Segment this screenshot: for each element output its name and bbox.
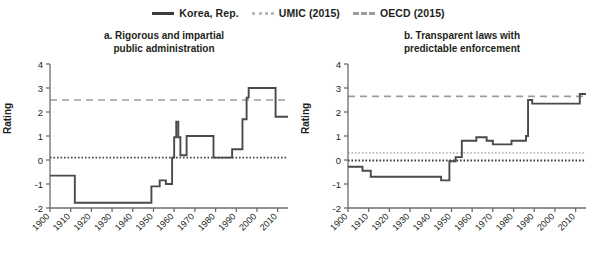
legend-item-korea: Korea, Rep. [152,7,238,19]
x-tick-label: 1910 [51,211,72,232]
x-tick-label: 1950 [432,211,453,232]
x-tick-label: 1930 [92,211,113,232]
y-tick-label: -1 [35,179,43,190]
y-tick-label: 0 [38,155,43,166]
x-tick-label: 1940 [411,211,432,232]
line-dotted-icon [252,12,274,15]
y-tick-label: 2 [336,107,341,118]
y-tick-label: -1 [333,179,341,190]
x-tick-label: 1900 [328,211,349,232]
x-tick-label: 1970 [473,211,494,232]
x-tick-label: 1960 [154,211,175,232]
x-tick-label: 1920 [72,211,93,232]
x-tick-label: 2010 [556,211,577,232]
y-tick-label: 3 [336,83,341,94]
figure-root: Korea, Rep. UMIC (2015) OECD (2015) a. R… [0,0,597,253]
chart-legend: Korea, Rep. UMIC (2015) OECD (2015) [0,0,597,26]
x-tick-label: 1970 [175,211,196,232]
x-tick-label: 1900 [30,211,51,232]
y-tick-label: 0 [336,155,341,166]
x-tick-label: 1960 [452,211,473,232]
legend-label-oecd: OECD (2015) [380,7,445,19]
y-tick-label: -2 [35,203,43,214]
x-tick-label: 1930 [390,211,411,232]
y-tick-label: 3 [38,83,43,94]
x-tick-label: 1980 [196,211,217,232]
y-tick-label: -2 [333,203,341,214]
x-tick-label: 1920 [370,211,391,232]
x-tick-label: 2000 [535,211,556,232]
x-tick-label: 1950 [134,211,155,232]
legend-item-umic: UMIC (2015) [252,7,340,19]
y-tick-label: 4 [38,59,43,70]
y-tick-label: 4 [336,59,341,70]
legend-label-umic: UMIC (2015) [279,7,340,19]
line-solid-icon [152,12,174,15]
y-tick-label: 1 [336,131,341,142]
panel-a-plot: 43210-1-21900191019201930194019501960197… [0,26,298,253]
x-tick-label: 2000 [237,211,258,232]
x-tick-label: 1910 [349,211,370,232]
y-tick-label: 2 [38,107,43,118]
x-tick-label: 1980 [494,211,515,232]
series-line-korea-rep [348,94,586,180]
chart-panel-a: a. Rigorous and impartial public adminis… [0,26,298,253]
x-tick-label: 1940 [113,211,134,232]
panel-b-plot: 43210-1-21900191019201930194019501960197… [298,26,596,253]
chart-panel-b: b. Transparent laws with predictable enf… [298,26,596,253]
x-tick-label: 1990 [514,211,535,232]
x-tick-label: 2010 [258,211,279,232]
series-line-korea-rep [50,88,288,203]
x-tick-label: 1990 [216,211,237,232]
legend-label-korea: Korea, Rep. [179,7,238,19]
y-tick-label: 1 [38,131,43,142]
legend-item-oecd: OECD (2015) [353,7,445,19]
line-dashed-icon [353,12,375,15]
